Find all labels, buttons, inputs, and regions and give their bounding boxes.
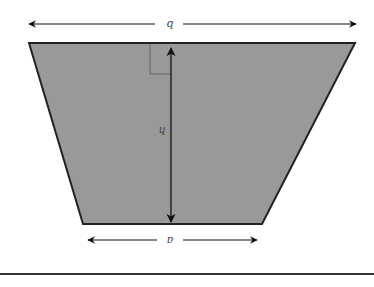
short-base-label: a: [167, 234, 174, 247]
trapezoid-diagram: b h a: [0, 0, 374, 287]
height-label: h: [158, 124, 165, 137]
trapezoid-shape: [29, 43, 355, 224]
long-base-label: b: [166, 18, 173, 31]
